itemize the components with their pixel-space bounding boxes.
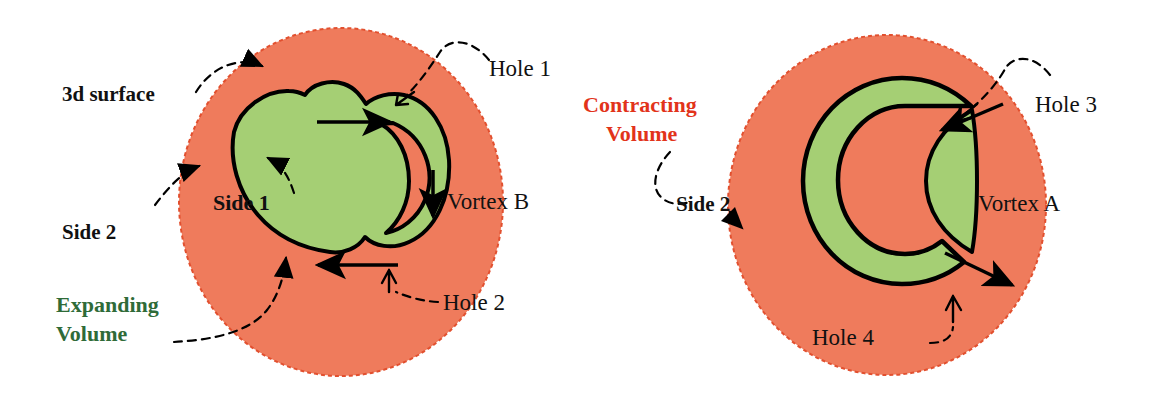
label-hole-4: Hole 4 [812, 326, 874, 349]
label-vortex-b: Vortex B [447, 190, 529, 213]
label-vortex-a: Vortex A [978, 192, 1060, 215]
label-hole-1: Hole 1 [489, 57, 551, 80]
label-right-side-2: Side 2 [676, 194, 730, 215]
label-expanding-volume-line2: Volume [56, 323, 127, 345]
label-contracting-volume-line2: Volume [606, 123, 677, 145]
label-hole-3: Hole 3 [1035, 93, 1097, 116]
label-3d-surface: 3d surface [62, 84, 155, 105]
label-contracting-volume-line1: Contracting [583, 94, 697, 116]
label-hole-2: Hole 2 [443, 291, 505, 314]
diagram-figure: 3d surface Side 2 Expanding Volume Side … [0, 0, 1153, 406]
label-side-1: Side 1 [213, 192, 270, 214]
label-left-side-2: Side 2 [62, 222, 116, 243]
label-expanding-volume-line1: Expanding [56, 294, 159, 316]
